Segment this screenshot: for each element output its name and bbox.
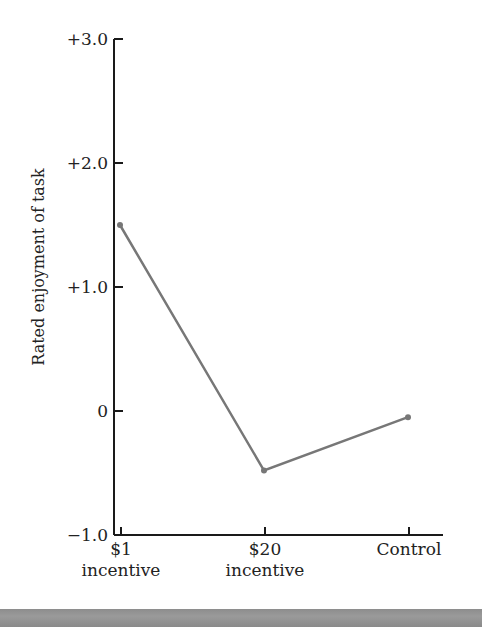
- x-tick-label: $20: [249, 539, 281, 559]
- y-axis-label: Rated enjoyment of task: [29, 168, 48, 366]
- chart: +3.0+2.0+1.00−1.0 $1incentive$20incentiv…: [0, 0, 482, 627]
- data-point: [117, 222, 123, 228]
- x-tick-label: Control: [377, 539, 442, 559]
- y-axis: +3.0+2.0+1.00−1.0: [67, 29, 123, 545]
- x-tick-label: incentive: [226, 560, 305, 580]
- y-tick-label: +2.0: [67, 153, 108, 173]
- y-tick-label: +1.0: [67, 277, 108, 297]
- line-chart: +3.0+2.0+1.00−1.0 $1incentive$20incentiv…: [0, 0, 482, 627]
- x-tick-label: incentive: [82, 560, 161, 580]
- data-point: [405, 414, 411, 420]
- data-point: [261, 468, 267, 474]
- y-axis-title: Rated enjoyment of task: [29, 168, 48, 366]
- y-tick-label: +3.0: [67, 29, 108, 49]
- x-axis: $1incentive$20incentiveControl: [82, 527, 443, 580]
- page-footer-bar: [0, 609, 482, 627]
- y-tick-label: −1.0: [67, 525, 108, 545]
- x-tick-label: $1: [110, 539, 132, 559]
- data-series: [117, 222, 411, 474]
- y-tick-label: 0: [97, 401, 108, 421]
- series-line: [120, 225, 408, 471]
